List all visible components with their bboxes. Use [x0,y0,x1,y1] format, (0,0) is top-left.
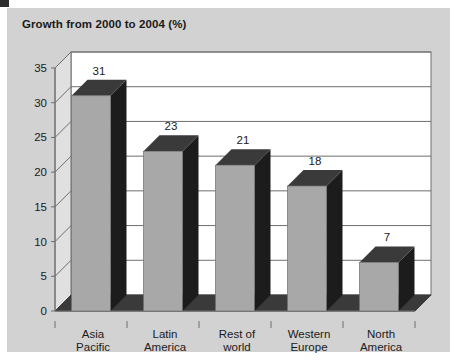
x-axis-category-label: Latin [153,328,178,340]
bar-column [288,170,343,311]
bar-column [144,135,199,311]
y-axis-tick-label: 25 [34,131,47,143]
bar-side-face [327,170,343,311]
bar-front-face [144,151,183,311]
y-axis-tick-label: 15 [34,201,47,213]
plot-left-wall [55,52,71,311]
y-axis-tick-label: 5 [41,270,47,282]
x-axis-category-label: Asia [82,328,105,340]
bar-value-label: 7 [384,231,390,243]
bar-value-label: 21 [237,134,250,146]
bar-chart-graphic: 0510152025303531AsiaPacific23LatinAmeric… [0,0,457,364]
bar-column [72,80,127,311]
bar-side-face [255,149,271,311]
x-axis-category-label: America [144,341,187,353]
x-axis-category-label: North [367,328,395,340]
x-axis-category-label: world [222,341,250,353]
bar-value-label: 23 [165,120,178,132]
y-axis-tick-label: 0 [41,305,47,317]
x-axis-category-label: America [360,341,403,353]
bar-side-face [111,80,127,311]
bar-front-face [72,96,111,311]
bar-front-face [216,165,255,311]
x-axis-category-label: Pacific [76,341,110,353]
x-axis-category-label: Western [288,328,331,340]
y-axis-tick-label: 35 [34,62,47,74]
y-axis-tick-label: 20 [34,166,47,178]
chart-page: Growth from 2000 to 2004 (%) 05101520253… [0,0,457,364]
bar-value-label: 31 [93,65,106,77]
y-axis-tick-label: 30 [34,97,47,109]
bar-value-label: 18 [309,155,322,167]
bar-front-face [360,262,399,311]
bar-front-face [288,186,327,311]
bar-side-face [183,135,199,311]
x-axis-category-label: Europe [290,341,327,353]
y-axis-tick-label: 10 [34,236,47,248]
bar-column [360,246,415,311]
x-axis-category-label: Rest of [219,328,256,340]
bar-column [216,149,271,311]
